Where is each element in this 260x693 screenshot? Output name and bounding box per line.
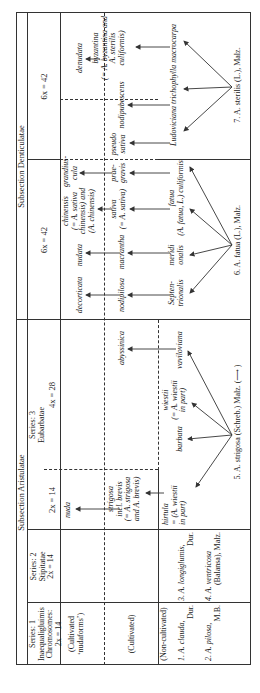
arrow-strigosa-parent-to-wiestii <box>192 403 232 435</box>
arrow-fatua-parent-to-fatua <box>190 209 232 245</box>
arrow-fatua-parent-to-meridionalis <box>190 245 232 255</box>
arrow-strigosa-parent-to-hirtula <box>196 435 232 487</box>
arrow-strigosa-parent-to-vaviloviana <box>188 351 232 435</box>
arrow-strigosa-parent-to-barbata <box>188 435 232 439</box>
arrows-layer <box>0 0 260 693</box>
arrow-sterilis-parent-to-trichophylla <box>184 87 232 89</box>
arrow-sterilis-parent-to-macrocarpa <box>184 41 232 87</box>
avena-classification-diagram: Subsection Aristulatae Subsection Dentic… <box>0 0 260 693</box>
arrow-fatua-parent-to-culiformis <box>190 167 232 245</box>
arrow-sterilis-parent-to-ludoviciana <box>184 87 232 131</box>
arrow-fatua-parent-to-septentrionalis <box>190 245 232 293</box>
